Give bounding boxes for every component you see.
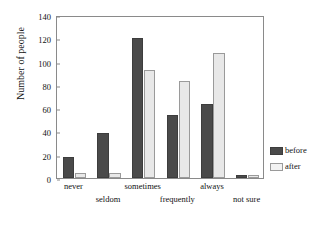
bar-group xyxy=(230,17,265,178)
y-tick-mark xyxy=(57,156,60,157)
x-tick-label-never: never xyxy=(64,181,83,191)
bar-always-after xyxy=(213,53,225,178)
chart-legend: beforeafter xyxy=(270,146,320,178)
legend-item-before: before xyxy=(270,146,320,155)
y-tick-label: 80 xyxy=(43,82,52,91)
y-tick-label: 20 xyxy=(43,152,52,161)
y-tick-label: 60 xyxy=(43,106,52,115)
y-tick-label: 120 xyxy=(38,36,51,45)
y-tick-mark xyxy=(57,63,60,64)
y-tick-label: 100 xyxy=(38,59,51,68)
y-tick-mark xyxy=(57,133,60,134)
y-tick-mark xyxy=(57,40,60,41)
x-tick-label-sometimes: sometimes xyxy=(124,181,160,191)
x-axis-labels: neverseldomsometimesfrequentlyalwaysnot … xyxy=(56,181,264,221)
bar-group xyxy=(57,17,92,178)
bar-seldom-before xyxy=(97,133,109,178)
bar-not-sure-after xyxy=(248,175,260,178)
bar-group xyxy=(196,17,231,178)
bar-never-after xyxy=(75,173,87,178)
legend-swatch-before xyxy=(270,147,283,155)
bar-sometimes-before xyxy=(132,38,144,178)
bar-not-sure-before xyxy=(236,175,248,178)
bar-frequently-before xyxy=(167,115,179,178)
bar-sometimes-after xyxy=(144,70,156,178)
bar-group xyxy=(92,17,127,178)
x-tick-label-frequently: frequently xyxy=(160,194,195,204)
bar-group xyxy=(126,17,161,178)
y-tick-mark xyxy=(57,110,60,111)
y-tick-label: 140 xyxy=(38,13,51,22)
x-tick-label-not-sure: not sure xyxy=(233,194,260,204)
y-tick-label: 40 xyxy=(43,129,52,138)
y-tick-mark xyxy=(57,17,60,18)
bar-always-before xyxy=(201,104,213,179)
x-tick-label-always: always xyxy=(200,181,224,191)
legend-swatch-after xyxy=(270,163,283,171)
x-tick-label-seldom: seldom xyxy=(96,194,121,204)
y-tick-mark xyxy=(57,86,60,87)
bar-frequently-after xyxy=(179,81,191,178)
bar-series-container xyxy=(57,17,263,178)
plot-area: 020406080100120140 xyxy=(56,16,264,179)
bar-never-before xyxy=(63,157,75,178)
legend-label-after: after xyxy=(285,162,301,171)
y-tick-label: 0 xyxy=(47,176,51,185)
chart-figure: Number of people 020406080100120140 neve… xyxy=(0,0,321,225)
y-axis-title: Number of people xyxy=(15,4,26,124)
legend-item-after: after xyxy=(270,162,320,171)
legend-label-before: before xyxy=(285,146,307,155)
bar-group xyxy=(161,17,196,178)
bar-seldom-after xyxy=(109,173,121,178)
